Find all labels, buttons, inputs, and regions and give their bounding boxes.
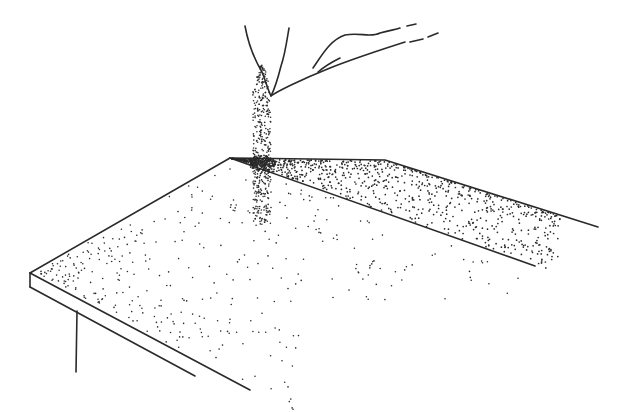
table-side-upper-edge: [30, 273, 250, 390]
table-top-back-edge: [230, 158, 598, 227]
sand-grains: [40, 65, 561, 411]
table-side-lower-edge: [30, 287, 195, 376]
hand-finger-upper-dash: [407, 24, 416, 26]
hand-drawing: [245, 24, 438, 96]
hand-finger-lower-dash-1: [410, 39, 423, 42]
hand-finger-lower-dash-2: [428, 33, 438, 37]
table-leg: [76, 311, 77, 372]
sand-pouring-illustration: [0, 0, 619, 412]
hand-thumb: [271, 28, 289, 96]
table-front-edge: [30, 158, 230, 273]
sand-ridge-line: [230, 158, 535, 266]
table-drawing: [30, 158, 598, 390]
hand-outline: [245, 26, 405, 96]
